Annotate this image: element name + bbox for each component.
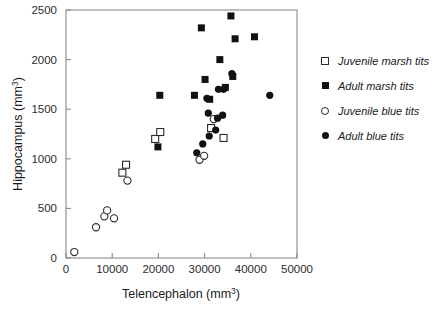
y-axis-tick-labels: 05001000150020002500 bbox=[31, 4, 57, 264]
data-point-filled-circle bbox=[206, 132, 213, 139]
plot-frame bbox=[66, 10, 297, 258]
plot-canvas: 01000020000300004000050000 0500100015002… bbox=[0, 0, 445, 312]
open-circle-icon bbox=[318, 107, 332, 115]
data-point-filled-square bbox=[227, 12, 234, 19]
data-point-filled-square bbox=[232, 35, 239, 42]
data-point-open-square bbox=[220, 134, 227, 141]
y-tick-label: 500 bbox=[38, 202, 57, 214]
data-point-open-square bbox=[152, 135, 159, 142]
data-point-filled-circle bbox=[220, 86, 227, 93]
y-axis-ticks bbox=[66, 10, 71, 258]
data-point-open-circle bbox=[201, 152, 208, 159]
y-tick-label: 1000 bbox=[31, 153, 57, 165]
data-point-filled-circle bbox=[212, 126, 219, 133]
data-point-open-circle bbox=[92, 224, 99, 231]
filled-circle-icon bbox=[318, 132, 332, 139]
data-point-filled-circle bbox=[203, 95, 210, 102]
x-axis-title: Telencephalon (mm3) bbox=[122, 286, 240, 301]
x-tick-label: 40000 bbox=[235, 263, 267, 275]
data-point-filled-circle bbox=[219, 112, 226, 119]
data-points bbox=[71, 12, 274, 255]
scatter-plot-figure: 01000020000300004000050000 0500100015002… bbox=[0, 0, 445, 312]
legend-item-adult-marsh-tits: Adult marsh tits bbox=[318, 73, 442, 98]
data-point-open-square bbox=[123, 161, 130, 168]
legend-item-juvenile-blue-tits: Juvenile blue tits bbox=[318, 98, 442, 123]
legend-item-label: Adult blue tits bbox=[332, 130, 404, 142]
data-point-filled-circle bbox=[193, 149, 200, 156]
legend: Juvenile marsh tits Adult marsh tits Juv… bbox=[318, 48, 442, 148]
data-point-filled-circle bbox=[199, 140, 206, 147]
filled-square-icon bbox=[318, 82, 332, 89]
y-tick-label: 2000 bbox=[31, 54, 57, 66]
x-tick-label: 50000 bbox=[281, 263, 313, 275]
data-point-filled-square bbox=[198, 24, 205, 31]
legend-item-label: Juvenile marsh tits bbox=[332, 55, 429, 67]
data-point-open-square bbox=[119, 169, 126, 176]
data-point-filled-circle bbox=[266, 92, 273, 99]
data-point-filled-circle bbox=[205, 110, 212, 117]
data-point-open-circle bbox=[104, 207, 111, 214]
data-point-filled-square bbox=[154, 143, 161, 150]
data-point-open-square bbox=[157, 129, 164, 136]
legend-item-label: Juvenile blue tits bbox=[332, 105, 419, 117]
x-tick-label: 0 bbox=[63, 263, 69, 275]
data-point-filled-square bbox=[216, 56, 223, 63]
data-point-open-circle bbox=[110, 215, 117, 222]
y-tick-label: 1500 bbox=[31, 103, 57, 115]
data-point-filled-square bbox=[191, 92, 198, 99]
legend-item-juvenile-marsh-tits: Juvenile marsh tits bbox=[318, 48, 442, 73]
data-point-filled-circle bbox=[228, 70, 235, 77]
x-axis-tick-labels: 01000020000300004000050000 bbox=[63, 263, 313, 275]
x-tick-label: 10000 bbox=[96, 263, 128, 275]
x-axis-ticks bbox=[66, 253, 297, 258]
y-axis-title: Hippocampus (mm3) bbox=[10, 77, 25, 191]
data-point-open-circle bbox=[124, 177, 131, 184]
x-tick-label: 30000 bbox=[189, 263, 221, 275]
data-point-filled-square bbox=[202, 76, 209, 83]
legend-item-label: Adult marsh tits bbox=[332, 80, 414, 92]
legend-item-adult-blue-tits: Adult blue tits bbox=[318, 123, 442, 148]
y-tick-label: 2500 bbox=[31, 4, 57, 16]
x-tick-label: 20000 bbox=[142, 263, 174, 275]
open-square-icon bbox=[318, 57, 332, 65]
data-point-filled-square bbox=[156, 92, 163, 99]
y-tick-label: 0 bbox=[51, 252, 57, 264]
data-point-filled-square bbox=[251, 33, 258, 40]
data-point-open-circle bbox=[71, 248, 78, 255]
